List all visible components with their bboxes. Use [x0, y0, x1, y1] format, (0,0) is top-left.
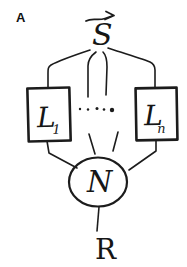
output-label: R [95, 233, 117, 266]
right-layer-box-label: L n [143, 99, 168, 136]
network-node-label: N [86, 165, 114, 199]
schematic-diagram: S L 1 L n [0, 0, 187, 267]
left-box-to-node [47, 141, 77, 168]
right-box-to-node [129, 141, 156, 170]
source-label: S [92, 17, 113, 52]
fan-line-right [108, 48, 155, 88]
fan-line-left [48, 50, 90, 87]
network-node: N [69, 158, 127, 207]
left-layer-box-label: L 1 [36, 101, 61, 138]
fan-out-lines [48, 48, 155, 97]
node-to-output-line [97, 207, 99, 231]
mid-right-to-node [113, 132, 118, 151]
right-layer-box: L n [136, 88, 178, 141]
mid-left-to-node [89, 134, 95, 154]
fan-line-mid-left [88, 52, 96, 97]
left-layer-box: L 1 [27, 87, 70, 141]
figure-panel: A S L 1 L n [0, 0, 187, 267]
ellipsis-dots [79, 107, 114, 112]
fan-line-mid-right [103, 52, 107, 95]
